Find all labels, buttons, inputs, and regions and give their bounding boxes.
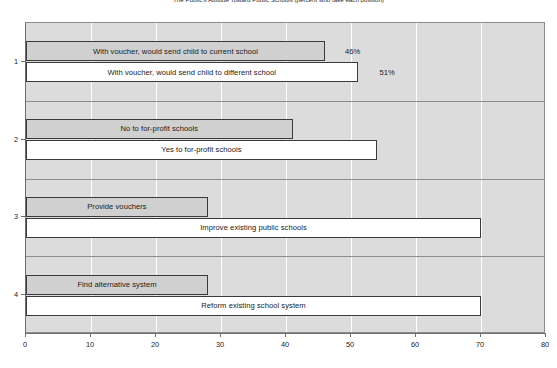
bar-label: Reform existing school system [201, 302, 305, 310]
x-tick-label-70: 70 [476, 340, 484, 349]
x-tick-10 [90, 333, 91, 337]
y-tick-2 [21, 139, 25, 140]
chart-title: The Public's Attitude Toward Public Scho… [0, 0, 557, 6]
bar[interactable]: No to for-profit schools [26, 119, 293, 139]
plot-area: With voucher, would send child to curren… [25, 22, 545, 333]
bar-label: With voucher, would send child to curren… [93, 48, 258, 56]
group-separator-1 [26, 101, 544, 102]
group-separator-2 [26, 179, 544, 180]
x-tick-70 [480, 333, 481, 337]
x-tick-label-60: 60 [411, 340, 419, 349]
y-tick-label-3: 3 [4, 212, 18, 221]
bar[interactable]: With voucher, would send child to differ… [26, 62, 358, 82]
gridline-x-60 [416, 23, 417, 332]
y-tick-label-1: 1 [4, 56, 18, 65]
bar-label: With voucher, would send child to differ… [107, 69, 276, 77]
y-axis-line [25, 22, 26, 333]
group-separator-3 [26, 256, 544, 257]
x-tick-20 [155, 333, 156, 337]
x-tick-label-0: 0 [23, 340, 27, 349]
bar-label: Provide vouchers [87, 203, 146, 211]
y-tick-1 [21, 61, 25, 62]
bar-label: Improve existing public schools [200, 224, 307, 232]
bar[interactable]: With voucher, would send child to curren… [26, 41, 325, 61]
x-tick-label-10: 10 [86, 340, 94, 349]
y-tick-3 [21, 216, 25, 217]
bar-label: No to for-profit schools [120, 125, 198, 133]
x-tick-80 [545, 333, 546, 337]
bar[interactable]: Yes to for-profit schools [26, 140, 377, 160]
bar-label: Find alternative system [77, 281, 156, 289]
gridline-x-80 [546, 23, 547, 332]
y-tick-label-2: 2 [4, 134, 18, 143]
x-tick-label-20: 20 [151, 340, 159, 349]
y-tick-4 [21, 294, 25, 295]
x-tick-label-30: 30 [216, 340, 224, 349]
bar[interactable]: Improve existing public schools [26, 218, 481, 238]
x-tick-60 [415, 333, 416, 337]
bar[interactable]: Find alternative system [26, 275, 208, 295]
bar-label: Yes to for-profit schools [161, 146, 241, 154]
x-tick-50 [350, 333, 351, 337]
bar-value-label: 46% [345, 48, 360, 56]
x-tick-30 [220, 333, 221, 337]
x-tick-0 [25, 333, 26, 337]
bar[interactable]: Provide vouchers [26, 197, 208, 217]
bar-value-label: 51% [380, 69, 395, 77]
y-tick-label-4: 4 [4, 290, 18, 299]
x-tick-label-80: 80 [541, 340, 549, 349]
x-tick-label-50: 50 [346, 340, 354, 349]
x-tick-40 [285, 333, 286, 337]
bar[interactable]: Reform existing school system [26, 296, 481, 316]
gridline-x-70 [481, 23, 482, 332]
x-tick-label-40: 40 [281, 340, 289, 349]
